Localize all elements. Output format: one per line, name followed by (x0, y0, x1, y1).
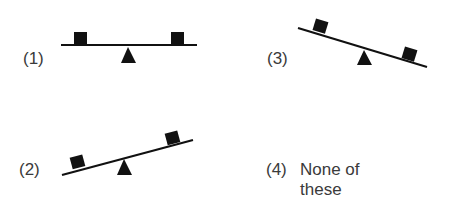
seesaw-option-2 (62, 130, 193, 175)
weight-right (171, 32, 184, 44)
weight-left (70, 154, 86, 169)
weight-left (74, 32, 87, 44)
seesaw-option-3 (298, 19, 427, 67)
fulcrum-icon (121, 47, 136, 63)
option-4-text-line1: None of (300, 160, 360, 180)
fulcrum-icon (117, 159, 132, 175)
fulcrum-icon (357, 50, 372, 65)
seesaw-diagrams (0, 0, 459, 209)
seesaw-option-1 (61, 32, 197, 63)
option-4-text-line2: these (300, 180, 342, 200)
option-label-3: (3) (267, 49, 288, 69)
weight-left (313, 19, 329, 34)
option-label-2: (2) (19, 160, 40, 180)
option-label-1: (1) (23, 49, 44, 69)
option-label-4: (4) (266, 160, 287, 180)
